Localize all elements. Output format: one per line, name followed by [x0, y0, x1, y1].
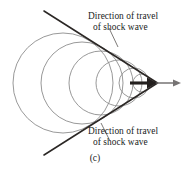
continuation-arrow-head — [173, 80, 181, 87]
label-top-direction-of-travel: Direction of travel of shock wave — [88, 11, 158, 33]
leader-lines — [101, 28, 118, 141]
shock-wave-figure: Direction of travel of shock wave Direct… — [0, 0, 190, 171]
wavefront-2 — [41, 42, 123, 124]
label-bottom-direction-of-travel: Direction of travel of shock wave — [88, 126, 158, 148]
label-bottom-line1: Direction of travel — [88, 126, 158, 137]
label-top-line1: Direction of travel — [88, 11, 158, 22]
label-top-line2: of shock wave — [88, 22, 158, 33]
label-bottom-line2: of shock wave — [88, 137, 158, 148]
wavefront-1-oldest — [13, 33, 113, 133]
figure-caption: (c) — [0, 152, 190, 163]
